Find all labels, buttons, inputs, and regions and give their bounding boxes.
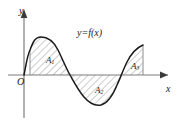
x-axis-label: x: [166, 84, 170, 94]
region-a1-label: A1: [46, 56, 54, 66]
function-label: y=f(x): [77, 28, 102, 38]
integral-area-figure: y x O y=f(x) A1 A2 A3: [0, 0, 178, 124]
region-a2-label: A2: [95, 86, 103, 96]
region-a2-subscript: 2: [101, 89, 104, 95]
x-axis-arrowhead: [160, 72, 168, 79]
figure-canvas: [0, 0, 178, 124]
y-axis-label: y: [19, 6, 23, 16]
region-a3-label: A3: [131, 62, 139, 72]
region-a3-subscript: 3: [137, 65, 140, 71]
origin-label: O: [17, 77, 24, 87]
region-a1-subscript: 1: [52, 59, 55, 65]
